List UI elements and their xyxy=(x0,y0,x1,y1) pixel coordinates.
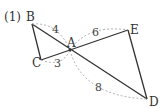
label-d: D xyxy=(149,95,159,108)
label-c: C xyxy=(32,56,41,70)
problem-number: (1) xyxy=(4,10,21,24)
measure-ad: 8 xyxy=(95,81,102,94)
label-b: B xyxy=(26,10,35,24)
measure-ae: 6 xyxy=(92,26,99,39)
label-a: A xyxy=(66,36,76,50)
measure-ac: 3 xyxy=(54,57,61,70)
geometry-figure: (1) 4 6 3 8 B A C E D xyxy=(0,0,162,108)
measure-ab: 4 xyxy=(52,23,59,36)
label-e: E xyxy=(130,23,139,37)
